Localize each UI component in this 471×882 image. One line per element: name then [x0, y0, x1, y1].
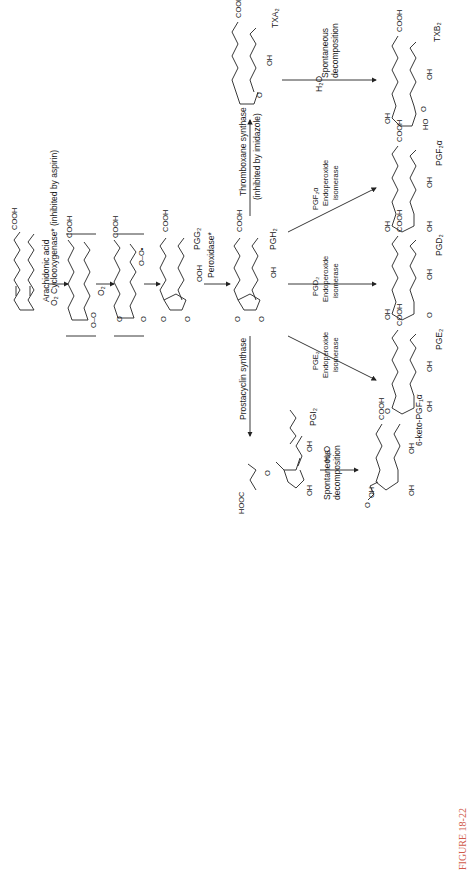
- cooh-label: COOH: [395, 304, 404, 327]
- oh-label: OH: [407, 485, 416, 496]
- cooh-label: COOH: [377, 398, 386, 421]
- oh-label: OH: [425, 177, 434, 188]
- cooh-label: COOH: [111, 216, 120, 239]
- oh-label: OH: [305, 441, 314, 452]
- intermediate-1-structure: COOH O–O: [65, 216, 98, 337]
- endoperoxide-label: Endoperoxide: [321, 256, 330, 302]
- txa2-structure: COOH OH O: [232, 0, 274, 104]
- pgf2a-enzyme-label: PGF₂α: [311, 187, 320, 210]
- pge2-label: PGE₂: [434, 329, 444, 350]
- o-label: O: [419, 106, 428, 112]
- endoperoxide-label: Endoperoxide: [321, 160, 330, 206]
- o-label: O: [183, 316, 192, 322]
- isomerase-label: isomerase: [331, 337, 340, 372]
- cooh-label: COOH: [395, 10, 404, 33]
- cooh-label: COOH: [235, 210, 244, 233]
- ooh-label: OOH: [195, 265, 204, 282]
- spontaneous-label-2: Spontaneous: [322, 450, 332, 500]
- ho-label: HO: [421, 119, 430, 130]
- cooh-label: COOH: [10, 208, 19, 231]
- o2-label: O₂: [49, 296, 59, 306]
- txb2-structure: COOH OH OH HO O: [383, 10, 434, 131]
- hooc-label: HOOC: [237, 491, 246, 514]
- oh-label: OH: [383, 309, 392, 320]
- pgi2-label: PGI₂: [308, 408, 318, 426]
- peroxyl-radical-label: O–O•: [137, 247, 146, 266]
- ketone-o-label: O: [363, 502, 372, 508]
- oh-label: OH: [425, 401, 434, 412]
- pgf2a-label: PGF₂α: [434, 140, 444, 166]
- isomerase-label: isomerase: [331, 263, 340, 298]
- pgg2-structure: COOH OOH O O: [159, 210, 204, 323]
- oh-label: OH: [425, 69, 434, 80]
- spontaneous-label: Spontaneous: [320, 28, 330, 78]
- o-label: O: [263, 470, 272, 476]
- oh-label: OH: [425, 361, 434, 372]
- oh-label: OH: [425, 269, 434, 280]
- cooh-label: COOH: [161, 210, 170, 233]
- cooh-label: COOH: [395, 210, 404, 233]
- pgg2-label: PGG₂: [192, 228, 202, 250]
- prostacyclin-synthase-label: Prostacyclin synthase: [238, 338, 248, 420]
- arachidonic-acid-structure: COOH: [10, 208, 34, 311]
- oh-label: OH: [265, 55, 274, 66]
- ketone-o-label: O: [425, 312, 434, 318]
- o-label: O: [159, 316, 168, 322]
- thromboxane-synthase-label: Thromboxane synthase: [238, 107, 248, 196]
- cooh-label: COOH: [395, 120, 404, 143]
- oh-label: OH: [269, 267, 278, 278]
- pge2-enzyme-label: PGE₂: [311, 351, 320, 370]
- oh-label: OH: [367, 487, 376, 498]
- pgh2-label: PGH₂: [268, 228, 278, 250]
- peroxidase-label: Peroxidase*: [206, 231, 216, 278]
- cooh-label: COOH: [65, 216, 74, 239]
- o-label: O: [115, 316, 124, 322]
- o-label: O: [233, 316, 242, 322]
- txa2-label: TXA₂: [270, 8, 280, 28]
- oh-label: OH: [425, 221, 434, 232]
- pgd2-label: PGD₂: [434, 234, 444, 256]
- oh-label: OH: [383, 113, 392, 124]
- endoperoxide-label: Endoperoxide: [321, 332, 330, 378]
- pgd2-enzyme-label: PGD₂: [311, 277, 320, 296]
- pgi2-structure: OH OH O HOOC: [237, 410, 314, 514]
- figure-caption: FIGURE 18-22: [457, 808, 468, 870]
- pgh2-structure: COOH OH O O: [233, 210, 278, 323]
- decomposition-label: decomposition: [330, 23, 340, 78]
- thromboxane-inhibitor-label: (inhibited by imidazole): [252, 113, 262, 200]
- oo-label: O–O: [89, 312, 98, 328]
- o-label: O: [255, 92, 264, 98]
- cooh-label: COOH: [234, 0, 243, 18]
- isomerase-label: isomerase: [331, 165, 340, 200]
- pgf2a-structure: COOH OH OH OH: [383, 120, 434, 233]
- o-label: O: [257, 316, 266, 322]
- intermediate-2-structure: COOH O–O• O O: [111, 216, 148, 337]
- cox-label: Cyclooxygenase* (inhibited by aspirin): [49, 150, 59, 294]
- o-label: O: [139, 316, 148, 322]
- oh-label: OH: [383, 221, 392, 232]
- txb2-label: TXB₂: [432, 22, 442, 42]
- oh-label: OH: [305, 485, 314, 496]
- o2-label-2: O₂: [96, 286, 106, 296]
- pathway-diagram: COOH Arachidonic acid O₂ Cyclooxygenase*…: [0, 0, 471, 882]
- 6-keto-pgf1a-label: 6-keto-PGF₁α: [414, 394, 424, 446]
- decomposition-label-2: decomposition: [332, 445, 342, 500]
